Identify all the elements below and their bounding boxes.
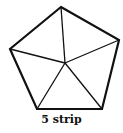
pentagon-diagram: [0, 0, 123, 113]
caption: 5 strip: [0, 113, 123, 126]
strip-lines: [10, 7, 119, 109]
